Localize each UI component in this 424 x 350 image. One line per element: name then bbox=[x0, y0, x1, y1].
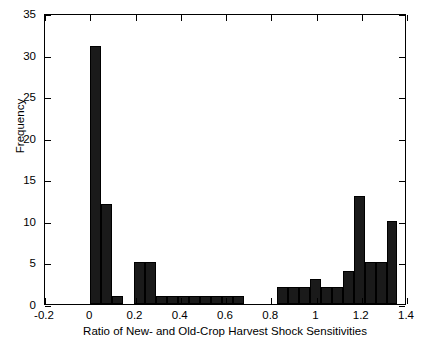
y-tick-mark-right bbox=[399, 140, 405, 141]
x-tick-label: 0.4 bbox=[172, 309, 188, 321]
y-tick-mark-right bbox=[399, 98, 405, 99]
y-tick-mark bbox=[45, 223, 51, 224]
y-tick-mark-right bbox=[399, 181, 405, 182]
x-tick-mark-top bbox=[45, 15, 46, 21]
y-tick-label: 35 bbox=[23, 8, 36, 20]
histogram-bar bbox=[90, 46, 101, 304]
histogram-bar bbox=[387, 221, 398, 304]
y-tick-mark bbox=[45, 264, 51, 265]
histogram-bar bbox=[288, 287, 299, 304]
histogram-bar bbox=[365, 262, 376, 304]
x-tick-mark bbox=[90, 298, 91, 304]
histogram-bar bbox=[211, 296, 222, 304]
x-tick-mark bbox=[317, 298, 318, 304]
histogram-bar bbox=[222, 296, 233, 304]
x-tick-mark bbox=[136, 298, 137, 304]
y-tick-mark bbox=[45, 98, 51, 99]
y-tick-label: 30 bbox=[23, 50, 36, 62]
x-axis-title: Ratio of New- and Old-Crop Harvest Shock… bbox=[44, 325, 406, 337]
x-tick-mark-top bbox=[226, 15, 227, 21]
histogram-bar bbox=[354, 196, 365, 304]
x-tick-label: 1.4 bbox=[398, 309, 414, 321]
y-tick-mark-right bbox=[399, 306, 405, 307]
histogram-bar bbox=[376, 262, 387, 304]
x-tick-label: 0.6 bbox=[217, 309, 233, 321]
y-tick-mark bbox=[45, 181, 51, 182]
histogram-bar bbox=[167, 296, 178, 304]
x-tick-label: 1 bbox=[312, 309, 318, 321]
y-tick-mark-right bbox=[399, 223, 405, 224]
histogram-bar bbox=[101, 204, 112, 304]
y-tick-mark bbox=[45, 57, 51, 58]
histogram-bar bbox=[200, 296, 211, 304]
y-tick-mark-right bbox=[399, 264, 405, 265]
histogram-bar bbox=[233, 296, 244, 304]
histogram-bar bbox=[156, 296, 167, 304]
x-tick-mark bbox=[226, 298, 227, 304]
x-tick-label: 0.8 bbox=[262, 309, 278, 321]
x-tick-mark bbox=[362, 298, 363, 304]
y-tick-label: 10 bbox=[23, 216, 36, 228]
histogram-bar bbox=[321, 287, 332, 304]
x-tick-mark-top bbox=[407, 15, 408, 21]
histogram-bar bbox=[310, 279, 321, 304]
histogram-bar bbox=[112, 296, 123, 304]
plot-area bbox=[44, 14, 406, 305]
y-tick-label: 5 bbox=[30, 257, 36, 269]
y-axis-title: Frequency bbox=[14, 66, 26, 186]
histogram-bar bbox=[332, 287, 343, 304]
histogram-bar bbox=[299, 287, 310, 304]
x-tick-mark-top bbox=[136, 15, 137, 21]
x-tick-mark bbox=[45, 298, 46, 304]
histogram-bar bbox=[145, 262, 156, 304]
y-tick-mark bbox=[45, 306, 51, 307]
x-tick-mark-top bbox=[181, 15, 182, 21]
x-tick-mark bbox=[181, 298, 182, 304]
x-tick-label: 1.2 bbox=[353, 309, 369, 321]
x-tick-mark bbox=[271, 298, 272, 304]
x-tick-mark-top bbox=[362, 15, 363, 21]
x-tick-label: 0.2 bbox=[127, 309, 143, 321]
histogram-bar bbox=[277, 287, 288, 304]
x-tick-mark bbox=[407, 298, 408, 304]
x-tick-mark-top bbox=[271, 15, 272, 21]
y-tick-mark bbox=[45, 140, 51, 141]
x-tick-mark-top bbox=[317, 15, 318, 21]
x-tick-mark-top bbox=[90, 15, 91, 21]
y-tick-mark-right bbox=[399, 15, 405, 16]
x-tick-label: -0.2 bbox=[34, 309, 54, 321]
histogram-figure: 05101520253035 -0.200.20.40.60.811.21.4 … bbox=[0, 0, 424, 350]
histogram-bar bbox=[343, 271, 354, 304]
histogram-bars bbox=[45, 15, 405, 304]
histogram-bar bbox=[189, 296, 200, 304]
y-tick-mark-right bbox=[399, 57, 405, 58]
histogram-bar bbox=[178, 296, 189, 304]
x-tick-label: 0 bbox=[86, 309, 92, 321]
